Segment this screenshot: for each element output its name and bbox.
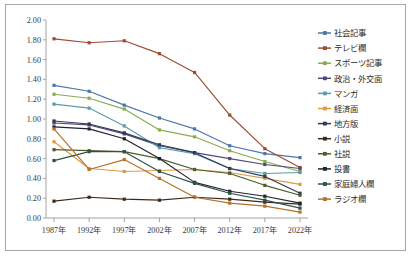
legend-item-6[interactable]: 地方版 xyxy=(318,119,359,129)
chart-svg: 0.000.200.400.600.801.001.201.401.601.80… xyxy=(0,0,413,257)
legend-swatch-marker xyxy=(323,167,327,171)
data-point xyxy=(228,113,231,116)
legend-item-8[interactable]: 社説 xyxy=(318,149,351,159)
data-point xyxy=(228,157,231,160)
legend-label: 政治・外交面 xyxy=(334,74,382,84)
data-point xyxy=(158,170,161,173)
data-point xyxy=(193,135,196,138)
legend-item-9[interactable]: 投書 xyxy=(318,164,350,174)
data-point xyxy=(52,119,55,122)
data-point xyxy=(52,159,55,162)
legend-swatch-marker xyxy=(323,61,327,65)
legend-label: 社会記事 xyxy=(334,28,366,38)
y-tick-label: 1.60 xyxy=(27,56,41,65)
legend-item-7[interactable]: 小説 xyxy=(318,134,351,144)
x-tick-label: 1987年 xyxy=(42,225,66,235)
y-tick-label: 1.00 xyxy=(27,115,41,124)
x-tick-label: 2002年 xyxy=(147,225,171,235)
x-tick-label: 2007年 xyxy=(182,225,206,235)
legend-label: 社説 xyxy=(334,149,351,159)
legend-item-11[interactable]: ラジオ欄 xyxy=(318,194,366,204)
data-point xyxy=(123,150,126,153)
legend-label: 経済面 xyxy=(334,104,358,114)
data-point xyxy=(158,52,161,55)
data-point xyxy=(52,93,55,96)
legend-swatch-marker xyxy=(323,182,327,186)
data-point xyxy=(88,196,91,199)
data-point xyxy=(88,90,91,93)
data-point xyxy=(123,158,126,161)
legend-item-5[interactable]: 経済面 xyxy=(318,104,358,114)
legend-item-2[interactable]: スポーツ記事 xyxy=(318,58,382,68)
data-point xyxy=(263,205,266,208)
data-point xyxy=(228,144,231,147)
legend-swatch-marker xyxy=(323,46,327,50)
legend-swatch-marker xyxy=(323,92,327,96)
legend-swatch-marker xyxy=(323,137,327,141)
data-point xyxy=(263,147,266,150)
data-point xyxy=(228,149,231,152)
data-point xyxy=(52,148,55,151)
data-point xyxy=(263,172,266,175)
data-point xyxy=(228,172,231,175)
x-tick-label: 1992年 xyxy=(77,225,101,235)
data-point xyxy=(228,198,231,201)
data-point xyxy=(158,177,161,180)
data-point xyxy=(298,167,301,170)
y-tick-label: 1.20 xyxy=(27,95,41,104)
series-line xyxy=(54,121,300,193)
data-point xyxy=(158,116,161,119)
data-point xyxy=(52,103,55,106)
legend-swatch-marker xyxy=(323,76,327,80)
data-point xyxy=(193,196,196,199)
data-point xyxy=(228,192,231,195)
legend-swatch-marker xyxy=(323,31,327,35)
legend-label: テレビ欄 xyxy=(334,43,366,53)
y-tick-label: 2.00 xyxy=(27,16,41,25)
line-chart: 0.000.200.400.600.801.001.201.401.601.80… xyxy=(0,0,413,257)
data-point xyxy=(123,131,126,134)
legend-item-1[interactable]: テレビ欄 xyxy=(318,43,366,53)
legend-label: 投書 xyxy=(334,164,350,174)
data-point xyxy=(298,171,301,174)
data-point xyxy=(158,199,161,202)
legend-label: マンガ xyxy=(334,89,358,99)
data-point xyxy=(88,150,91,153)
data-point xyxy=(298,207,301,210)
data-point xyxy=(228,202,231,205)
legend-swatch-marker xyxy=(323,152,327,156)
data-point xyxy=(52,84,55,87)
legend-item-3[interactable]: 政治・外交面 xyxy=(318,74,382,84)
data-point xyxy=(52,37,55,40)
data-point xyxy=(123,104,126,107)
x-tick-label: 2012年 xyxy=(218,225,242,235)
data-point xyxy=(88,122,91,125)
y-tick-label: 1.80 xyxy=(27,36,41,45)
series-line xyxy=(54,94,300,171)
y-tick-label: 0.80 xyxy=(27,135,41,144)
x-tick-label: 2017年 xyxy=(253,225,277,235)
series-line xyxy=(54,127,300,203)
legend-swatch-marker xyxy=(323,107,327,111)
data-point xyxy=(193,151,196,154)
y-tick-label: 0.40 xyxy=(27,174,41,183)
data-point xyxy=(88,107,91,110)
y-tick-label: 0.60 xyxy=(27,155,41,164)
data-point xyxy=(193,127,196,130)
legend-item-4[interactable]: マンガ xyxy=(318,89,358,99)
data-point xyxy=(193,71,196,74)
data-point xyxy=(123,108,126,111)
legend-label: ラジオ欄 xyxy=(334,194,366,204)
data-point xyxy=(158,128,161,131)
data-point xyxy=(123,39,126,42)
y-tick-label: 1.40 xyxy=(27,75,41,84)
series-6 xyxy=(52,119,301,194)
legend-item-0[interactable]: 社会記事 xyxy=(318,28,366,38)
data-point xyxy=(123,137,126,140)
data-point xyxy=(263,199,266,202)
legend-label: 小説 xyxy=(334,134,351,144)
data-point xyxy=(263,195,266,198)
legend-swatch-marker xyxy=(323,122,327,126)
legend-item-10[interactable]: 家庭婦人欄 xyxy=(318,179,374,189)
data-point xyxy=(263,160,266,163)
